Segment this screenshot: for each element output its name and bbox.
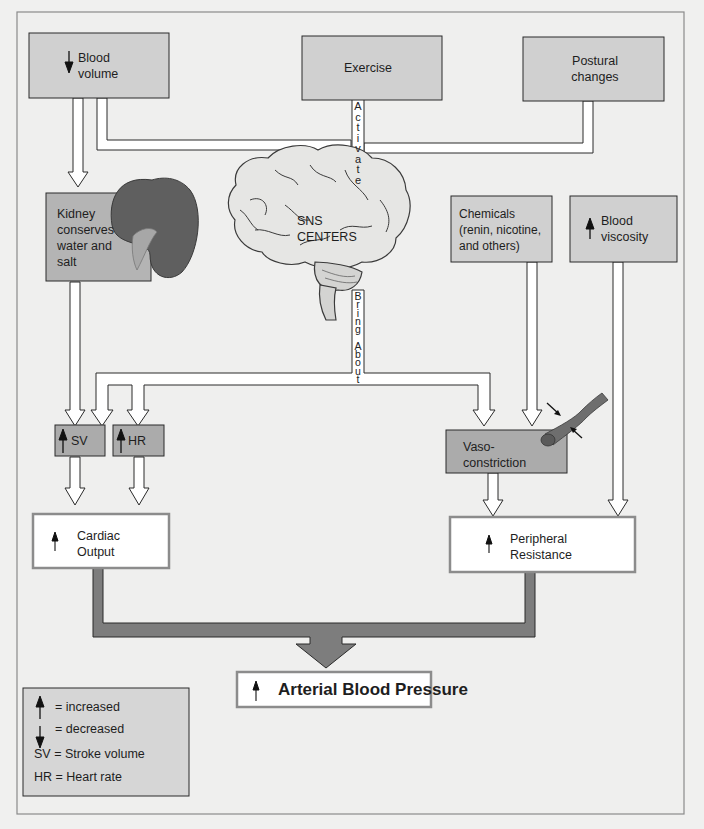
legend-decreased: = decreased — [55, 721, 124, 737]
legend-hr: HR = Heart rate — [34, 769, 122, 785]
arterial-bp-label: Arterial Blood Pressure — [278, 680, 468, 700]
sns-centers-label: SNSCENTERS — [297, 213, 357, 245]
kidney-label: Kidneyconserveswater andsalt — [57, 206, 114, 270]
diagram-canvas: Bloodvolume Exercise Posturalchanges Kid… — [0, 0, 704, 829]
peripheral-resistance-label: PeripheralResistance — [510, 531, 572, 563]
postural-label: Posturalchanges — [569, 53, 621, 85]
cardiac-output-label: CardiacOutput — [77, 528, 120, 560]
chemicals-label: Chemicals(renin, nicotine,and others) — [459, 206, 541, 254]
vasoconstriction-label: Vaso-constriction — [463, 439, 526, 471]
legend-sv: SV = Stroke volume — [34, 746, 145, 762]
legend-increased: = increased — [55, 699, 120, 715]
activate-connector-label: A c t i v a t e — [352, 101, 364, 185]
hr-label: HR — [128, 433, 146, 449]
blood-volume-label: Bloodvolume — [78, 50, 118, 82]
blood-viscosity-label: Bloodviscosity — [601, 213, 648, 245]
sv-label: SV — [71, 433, 88, 449]
exercise-label: Exercise — [344, 60, 392, 76]
bring-about-connector-label: B r i n g A b o u t — [352, 292, 364, 383]
